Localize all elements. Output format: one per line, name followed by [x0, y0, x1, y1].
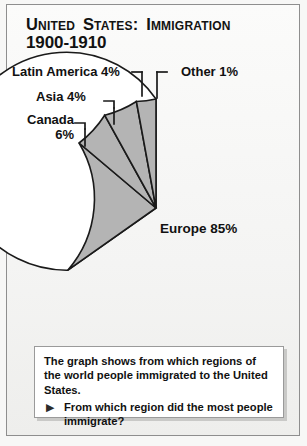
slice-label-latin-america: Latin America 4% [12, 65, 120, 80]
caption-box: The graph shows from which regions of th… [34, 346, 284, 418]
caption-question: From which region did the most people im… [64, 400, 274, 429]
slice-label-other: Other 1% [181, 65, 238, 80]
slice-label-canada-percent: 6% [12, 128, 74, 143]
slice-label-europe: Europe 85% [160, 221, 237, 236]
pie-chart: Latin America 4% Asia 4% Canada 6% Other… [0, 0, 307, 340]
slice-label-canada: Canada 6% [12, 113, 74, 142]
caption-question-row: ▶ From which region did the most people … [44, 400, 274, 429]
figure-page: United States: Immigration 1900-1910 [0, 0, 307, 446]
pie-chart-svg [0, 0, 307, 340]
slice-label-asia: Asia 4% [36, 90, 86, 105]
slice-label-canada-name: Canada [27, 112, 74, 127]
triangle-bullet-icon: ▶ [44, 400, 64, 414]
caption-statement: The graph shows from which regions of th… [44, 354, 274, 397]
